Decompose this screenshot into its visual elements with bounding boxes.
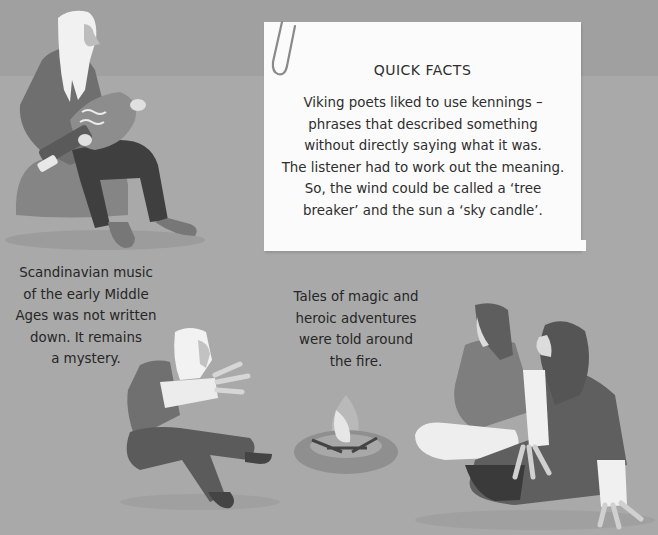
campfire-illustration	[292, 390, 400, 480]
caption-line: of the early Middle	[6, 284, 166, 306]
listeners-illustration	[405, 295, 658, 535]
quick-facts-line: Viking poets liked to use kennings –	[268, 92, 578, 114]
quick-facts-line: So, the wind could be called a ‘tree	[268, 178, 578, 200]
storyteller-illustration	[120, 320, 300, 520]
quick-facts-line: breaker’ and the sun a ‘sky candle’.	[268, 200, 578, 222]
quick-facts-line: The listener had to work out the meaning…	[268, 157, 578, 179]
quick-facts-line: without directly saying what it was.	[268, 135, 578, 157]
musician-illustration	[0, 0, 240, 260]
quick-facts-line: phrases that described something	[268, 114, 578, 136]
quick-facts-note-fold	[540, 240, 586, 251]
caption-line: Scandinavian music	[6, 262, 166, 284]
quick-facts-title: QUICK FACTS	[264, 62, 581, 78]
quick-facts-body: Viking poets liked to use kennings – phr…	[268, 92, 578, 221]
